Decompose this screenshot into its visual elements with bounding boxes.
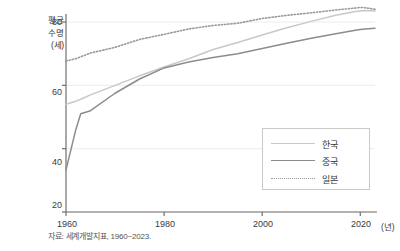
y-tick-label-20: 20 [36,200,62,210]
legend-item-china[interactable]: 중국 [271,154,365,168]
plot-area [0,0,400,251]
legend[interactable]: 한국 중국 일본 [262,128,370,190]
life-expectancy-chart: 평균 수명 (세) 80 60 40 20 1960 1980 2000 202… [0,0,400,251]
x-tick-label-1980: 1980 [145,219,185,229]
legend-item-japan[interactable]: 일본 [271,172,365,186]
y-tick-label-40: 40 [36,157,62,167]
y-tick-label-80: 80 [36,17,62,27]
legend-label-japan: 일본 [322,173,338,186]
legend-label-china: 중국 [322,155,338,168]
legend-item-korea[interactable]: 한국 [271,137,365,151]
series-line-한국 [66,11,375,105]
x-tick-label-1960: 1960 [47,219,87,229]
series-line-일본 [66,7,375,61]
x-axis-unit-label: (년) [381,220,395,232]
x-tick-label-2020: 2020 [341,219,381,229]
source-note: 자료: 세계개발지표, 1960~2023. [48,230,151,241]
x-tick-label-2000: 2000 [243,219,283,229]
legend-label-korea: 한국 [322,138,338,151]
y-tick-label-60: 60 [36,87,62,97]
